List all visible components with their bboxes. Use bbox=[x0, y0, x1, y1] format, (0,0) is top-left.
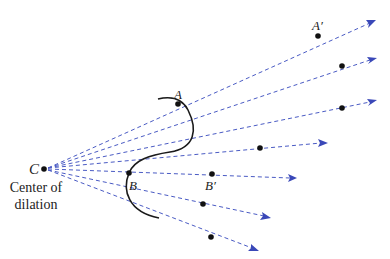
image-point-3 bbox=[339, 105, 345, 111]
dilation-diagram: C A A′ B B′ bbox=[0, 0, 390, 259]
label-C: C bbox=[29, 161, 40, 177]
rays bbox=[48, 23, 370, 248]
ray-1 bbox=[48, 23, 370, 168]
ray-6 bbox=[48, 170, 264, 216]
label-A-prime: A′ bbox=[311, 18, 323, 33]
center-point-C bbox=[41, 166, 47, 172]
arrowheads bbox=[248, 20, 377, 251]
ray-7 bbox=[48, 170, 252, 248]
label-B: B bbox=[129, 178, 137, 193]
image-point-4 bbox=[257, 145, 263, 151]
point-B bbox=[126, 170, 132, 176]
arrowhead-icon bbox=[318, 139, 328, 147]
ray-3 bbox=[48, 102, 370, 168]
label-B-prime: B′ bbox=[205, 178, 216, 193]
point-B-prime bbox=[209, 171, 215, 177]
image-point-7 bbox=[208, 234, 214, 240]
caption-line-2: dilation bbox=[0, 196, 72, 213]
point-A-prime bbox=[315, 33, 321, 39]
image-point-2 bbox=[339, 63, 345, 69]
point-A bbox=[175, 101, 181, 107]
ray-2 bbox=[48, 60, 370, 168]
caption-line-1: Center of bbox=[0, 179, 72, 196]
arrowhead-icon bbox=[248, 244, 259, 251]
center-of-dilation-caption: Center of dilation bbox=[0, 179, 72, 213]
label-A: A bbox=[173, 87, 182, 102]
image-point-6 bbox=[200, 201, 206, 207]
ray-5 bbox=[48, 169, 290, 178]
arrowhead-icon bbox=[367, 99, 377, 106]
